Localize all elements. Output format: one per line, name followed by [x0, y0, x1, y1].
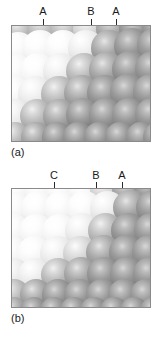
layer-label-b: B: [84, 5, 98, 17]
layer-label-b: B: [89, 169, 103, 181]
layer-label-a: A: [115, 169, 129, 181]
stacking-sequence-figure: ABA (a) CBA (b): [0, 0, 164, 338]
panel-a-label-row: ABA: [0, 0, 164, 24]
panel-a: ABA (a): [0, 0, 164, 166]
layer-label-a: A: [109, 5, 123, 17]
panel-b-label-row: CBA: [0, 164, 164, 188]
panel-b-atom-layer: [12, 189, 150, 307]
panel-a-atom-layer: [12, 26, 150, 141]
panel-a-caption: (a): [11, 146, 24, 159]
panel-b-packing-diagram: [11, 188, 151, 308]
panel-b: CBA (b): [0, 164, 164, 338]
layer-label-c: C: [47, 169, 61, 181]
panel-a-packing-diagram: [11, 25, 151, 142]
layer-label-a: A: [36, 5, 50, 17]
panel-b-caption: (b): [11, 312, 24, 325]
